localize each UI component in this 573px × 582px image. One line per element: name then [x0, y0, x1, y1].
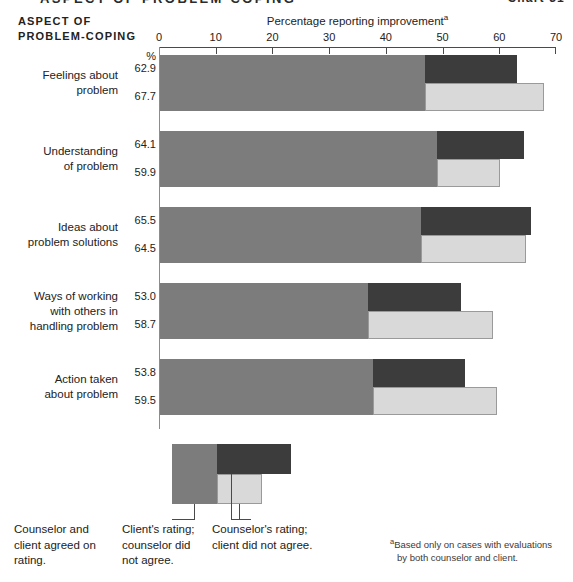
legend-leader-agreed-vertical — [194, 504, 195, 520]
page-title: ASPECT OF PROBLEM-COPING — [40, 0, 296, 6]
value-label-counselor: 62.9 — [112, 62, 156, 74]
legend-label-client: Client's rating; counselor did not agree… — [122, 522, 200, 569]
bar-client-rating — [160, 387, 497, 415]
category-label-line3: handling problem — [0, 319, 118, 334]
bar-segment-client-only — [437, 159, 500, 187]
value-label-counselor: 53.0 — [112, 290, 156, 302]
footnote-line1: Based only on cases with evaluations — [394, 539, 552, 550]
bar-segment-client-only — [368, 311, 493, 339]
legend-swatch-agreed-top — [172, 444, 217, 474]
legend-leader-client-vertical — [239, 504, 240, 520]
x-axis-tick-20: 20 — [266, 31, 278, 43]
category-label-line2: of problem — [0, 159, 118, 174]
category-label: Ways of workingwith others inhandling pr… — [0, 289, 118, 334]
bar-counselor-rating — [160, 131, 524, 159]
value-label-client: 59.5 — [112, 394, 156, 406]
bar-counselor-rating — [160, 359, 465, 387]
value-label-client: 58.7 — [112, 318, 156, 330]
x-axis-tick-30: 30 — [323, 31, 335, 43]
aspect-column-heading: ASPECT OF PROBLEM-COPING — [18, 14, 136, 44]
bar-group — [159, 359, 556, 415]
percent-symbol: % — [112, 50, 156, 62]
bar-client-rating — [160, 235, 526, 263]
category-label-line2: problem solutions — [0, 235, 118, 250]
x-axis-tick-60: 60 — [493, 31, 505, 43]
category-label-line2: with others in — [0, 304, 118, 319]
bar-segment-agreed — [160, 131, 437, 159]
value-label-client: 64.5 — [112, 242, 156, 254]
category-label-line1: Ideas about — [0, 220, 118, 235]
value-label-counselor: 53.8 — [112, 366, 156, 378]
legend-leader-agreed-horizontal — [172, 519, 195, 520]
aspect-heading-line1: ASPECT OF — [18, 14, 136, 29]
bar-group — [159, 55, 556, 111]
x-axis-tick-50: 50 — [436, 31, 448, 43]
bar-counselor-rating — [160, 55, 517, 83]
bar-segment-counselor-only — [437, 131, 524, 159]
legend-leader-counselor-horizontal — [231, 519, 251, 520]
category-label-line1: Understanding — [0, 144, 118, 159]
category-label-line1: Ways of working — [0, 289, 118, 304]
legend-swatch-client-only — [217, 474, 262, 504]
legend-leader-counselor-vertical — [231, 474, 232, 520]
bar-segment-counselor-only — [425, 55, 516, 83]
footnote-line2: by both counselor and client. — [390, 551, 570, 564]
bar-group — [159, 283, 556, 339]
legend-swatch-agreed-bottom — [172, 474, 217, 504]
x-axis-title-text: Percentage reporting improvement — [267, 15, 444, 27]
value-label-client: 67.7 — [112, 90, 156, 102]
bar-segment-agreed — [160, 235, 421, 263]
x-axis-tick-0: 0 — [156, 31, 162, 43]
aspect-heading-line2: PROBLEM-COPING — [18, 29, 136, 44]
bar-segment-agreed — [160, 55, 425, 83]
value-label-client: 59.9 — [112, 166, 156, 178]
bar-client-rating — [160, 83, 544, 111]
bar-segment-agreed — [160, 387, 373, 415]
bar-client-rating — [160, 159, 500, 187]
chart-number: Chart 31 — [507, 0, 565, 5]
bar-segment-agreed — [160, 283, 368, 311]
bar-segment-client-only — [421, 235, 525, 263]
bar-segment-agreed — [160, 207, 421, 235]
x-axis-tick-70: 70 — [550, 31, 562, 43]
bar-counselor-rating — [160, 283, 461, 311]
bar-segment-agreed — [160, 83, 425, 111]
bar-segment-counselor-only — [421, 207, 531, 235]
footnote: aBased only on cases with evaluations by… — [390, 535, 570, 564]
value-label-counselor: 65.5 — [112, 214, 156, 226]
bar-segment-client-only — [425, 83, 544, 111]
category-label: Feelings aboutproblem — [0, 68, 118, 98]
value-label-counselor: 64.1 — [112, 138, 156, 150]
plot-area — [159, 47, 556, 429]
bar-group — [159, 131, 556, 187]
category-label-line1: Feelings about — [0, 68, 118, 83]
legend-label-counselor: Counselor's rating; client did not agree… — [212, 522, 330, 553]
category-label: Action takenabout problem — [0, 372, 118, 402]
legend-swatch-counselor-only — [217, 444, 291, 474]
x-axis-tick-10: 10 — [210, 31, 222, 43]
bar-segment-agreed — [160, 311, 368, 339]
category-label-line1: Action taken — [0, 372, 118, 387]
x-axis-title: Percentage reporting improvementa — [159, 13, 556, 27]
bar-counselor-rating — [160, 207, 531, 235]
bar-segment-agreed — [160, 359, 373, 387]
bar-segment-client-only — [373, 387, 497, 415]
category-label-line2: problem — [0, 83, 118, 98]
bar-segment-counselor-only — [373, 359, 465, 387]
bar-segment-counselor-only — [368, 283, 460, 311]
bar-client-rating — [160, 311, 493, 339]
category-label: Understandingof problem — [0, 144, 118, 174]
legend-label-agreed: Counselor and client agreed on rating. — [14, 522, 112, 569]
x-axis-tick-40: 40 — [380, 31, 392, 43]
bar-segment-agreed — [160, 159, 437, 187]
category-label-line2: about problem — [0, 387, 118, 402]
bar-group — [159, 207, 556, 263]
category-label: Ideas aboutproblem solutions — [0, 220, 118, 250]
x-axis-footnote-marker: a — [444, 13, 448, 22]
